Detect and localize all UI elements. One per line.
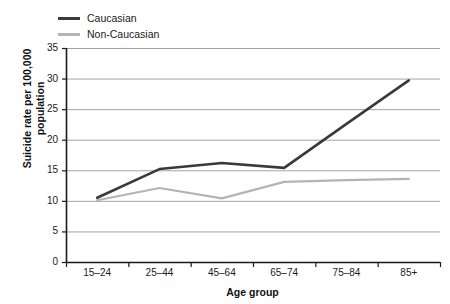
y-tick-label: 30 (24, 74, 58, 84)
plot-area (0, 0, 450, 304)
y-tick-label: 35 (24, 43, 58, 53)
y-tick-label: 0 (24, 257, 58, 267)
x-axis-title: Age group (65, 286, 440, 298)
x-tick-label: 85+ (378, 268, 440, 278)
x-tick-label: 15–24 (66, 268, 128, 278)
y-tick-label: 25 (24, 104, 58, 114)
y-tick-label: 15 (24, 165, 58, 175)
y-tick-label: 5 (24, 226, 58, 236)
line-chart: Caucasian Non-Caucasian Suicide rate per… (0, 0, 450, 304)
x-tick-label: 75–84 (315, 268, 377, 278)
x-tick-label: 65–74 (253, 268, 315, 278)
series-line-non-caucasian (97, 179, 409, 200)
y-tick-label: 10 (24, 196, 58, 206)
y-tick-label: 20 (24, 135, 58, 145)
x-tick-label: 25–44 (128, 268, 190, 278)
x-tick-label: 45–64 (191, 268, 253, 278)
